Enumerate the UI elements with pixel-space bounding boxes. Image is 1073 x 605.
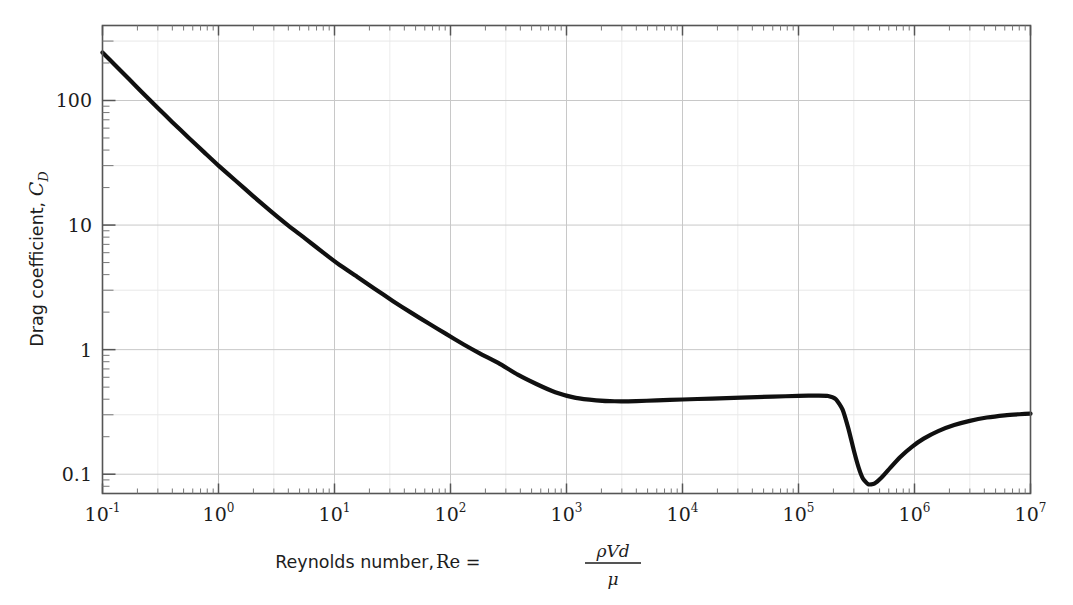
fraction-numerator: ρVd (595, 541, 629, 561)
y-tick-label: 0.1 (62, 463, 92, 485)
chart-canvas: 10-1100101102103104105106107 0.1110100 D… (0, 0, 1073, 605)
svg-text:Reynolds number,: Reynolds number, (275, 552, 434, 572)
y-tick-label: 10 (68, 214, 92, 236)
svg-text:Re =: Re = (436, 551, 480, 572)
x-axis-label-prefix: Reynolds number, (275, 552, 434, 572)
y-axis-label-subscript: D (36, 171, 51, 183)
y-axis-label-prefix: Drag coefficient, (27, 196, 47, 346)
drag-coefficient-figure: 10-1100101102103104105106107 0.1110100 D… (0, 0, 1073, 605)
x-axis-label-equals: = (460, 552, 480, 572)
x-axis-label-symbol: Re (436, 551, 460, 572)
y-tick-label: 100 (56, 89, 92, 111)
y-axis-label-symbol: C (25, 181, 47, 196)
fraction-denominator: μ (607, 569, 618, 589)
y-tick-label: 1 (80, 339, 92, 361)
